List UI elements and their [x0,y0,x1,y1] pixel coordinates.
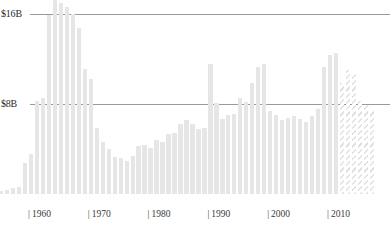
bar [136,146,140,194]
plot-area: $16B $8B |1960|1970|1980|1990|2000|2010 [0,0,390,230]
bar [131,156,135,194]
bar [29,154,33,195]
bar [148,148,152,194]
tick-mark-icon: | [327,209,329,220]
bar [41,98,45,194]
bar [65,7,69,194]
bar [11,188,15,194]
bar [17,187,21,194]
bar [322,67,326,194]
bar [113,157,117,194]
bar [95,128,99,194]
x-axis-tick-label: 1980 [152,209,171,219]
x-axis-tick-label: 1960 [32,209,51,219]
tick-mark-icon: | [148,209,150,220]
x-axis-tick-2000: |2000 [267,209,290,220]
bar [328,55,332,195]
bar [292,116,296,194]
bar [202,128,206,194]
bar [190,124,194,194]
bar [256,67,260,194]
bar [250,83,254,194]
bar [71,14,75,194]
bar [268,111,272,194]
bar-projected [358,101,362,194]
bar [166,134,170,194]
y-axis-label-8b: $8B [1,99,17,109]
bar [77,28,81,195]
gridline-16b [30,14,390,15]
tick-mark-icon: | [88,209,90,220]
bar-projected [340,83,344,194]
bar [107,149,111,194]
bar-projected [364,105,368,194]
x-axis-tick-label: 2000 [271,209,290,219]
bar-projected [346,70,350,194]
x-axis-tick-label: 1970 [92,209,111,219]
bar [5,190,9,195]
bar [280,120,284,194]
bar [59,3,63,194]
bar [334,53,338,194]
tick-mark-icon: | [207,209,209,220]
bar [35,101,39,194]
bar [310,116,314,194]
bar [304,122,308,194]
bar [244,102,248,194]
bar [232,114,236,194]
bar-projected [352,73,356,195]
bar [196,129,200,194]
bar [274,115,278,194]
bar [101,142,105,194]
bar [53,0,57,194]
bar [23,163,27,195]
bar [125,161,129,194]
x-axis-tick-1980: |1980 [148,209,171,220]
bar [226,115,230,194]
bar [238,98,242,194]
bar [119,158,123,194]
x-axis-tick-1990: |1990 [207,209,230,220]
bar [298,119,302,194]
bar [142,145,146,195]
bar [83,69,87,194]
bar [89,79,93,194]
bar [160,142,164,194]
x-axis-tick-label: 1990 [211,209,230,219]
tick-mark-icon: | [267,209,269,220]
x-axis-tick-2010: |2010 [327,209,350,220]
bar [214,103,218,194]
bar [178,124,182,194]
bar [208,64,212,195]
bar [220,119,224,194]
bar [47,15,51,194]
tick-mark-icon: | [28,209,30,220]
bar [184,120,188,194]
bar [154,140,158,194]
bar [286,118,290,195]
bar [316,109,320,195]
x-axis-tick-1970: |1970 [88,209,111,220]
x-axis-tick-1960: |1960 [28,209,51,220]
bar [172,133,176,194]
x-axis-tick-label: 2010 [331,209,350,219]
y-axis-label-16b: $16B [1,9,22,19]
bar [262,64,266,195]
bar [0,191,3,194]
bar-chart: $16B $8B |1960|1970|1980|1990|2000|2010 [0,0,390,230]
bar-projected [370,110,374,194]
